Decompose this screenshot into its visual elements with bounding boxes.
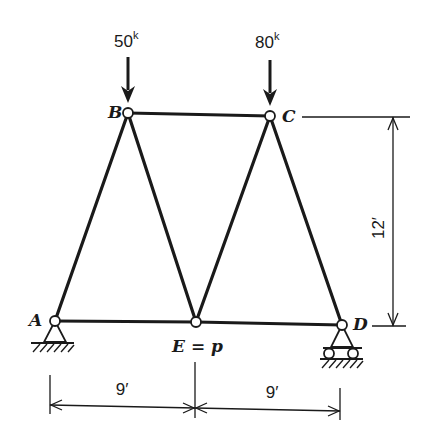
load-label-c: 80k xyxy=(255,30,280,52)
node-label-b: B xyxy=(107,102,122,122)
joint-c xyxy=(265,111,275,121)
node-label-d: D xyxy=(352,314,368,334)
height-label: 12′ xyxy=(369,217,388,239)
truss-diagram: 50k 80k B C A D E = p 12′ 9′ 9′ xyxy=(0,0,424,441)
node-label-c: C xyxy=(282,106,296,126)
member-ae xyxy=(55,321,196,322)
truss-members xyxy=(55,113,342,325)
span-right-label: 9′ xyxy=(266,383,279,402)
span-dimensions xyxy=(50,362,340,420)
member-bc xyxy=(128,113,270,116)
truss-joints xyxy=(50,108,347,330)
member-cd xyxy=(270,116,342,325)
member-ed xyxy=(196,322,342,325)
load-label-b: 50k xyxy=(114,29,139,51)
height-dimension xyxy=(302,117,410,326)
joint-a xyxy=(50,316,60,326)
member-be xyxy=(128,113,196,322)
load-arrows xyxy=(121,57,277,106)
member-ab xyxy=(55,113,128,321)
node-label-e: E = p xyxy=(171,336,223,356)
node-label-a: A xyxy=(27,310,42,330)
span-left-label: 9′ xyxy=(116,380,129,399)
joint-b xyxy=(123,108,133,118)
joint-e xyxy=(191,317,201,327)
joint-d xyxy=(337,320,347,330)
member-ec xyxy=(196,116,270,322)
